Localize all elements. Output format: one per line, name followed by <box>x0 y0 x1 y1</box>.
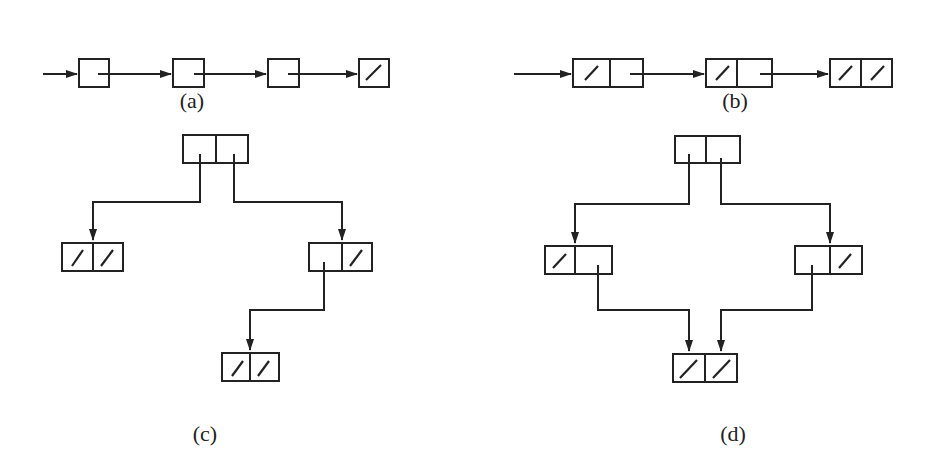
panel-d: (d) <box>545 136 862 446</box>
caption-a: (a) <box>180 88 204 113</box>
caption-d: (d) <box>720 421 746 446</box>
caption-c: (c) <box>193 421 217 446</box>
panel-c: (c) <box>62 135 372 446</box>
linked-structures-diagram: (a) (b) (c) <box>0 0 933 463</box>
panel-a: (a) <box>43 59 389 113</box>
caption-b: (b) <box>722 88 748 113</box>
panel-b: (b) <box>514 59 892 113</box>
